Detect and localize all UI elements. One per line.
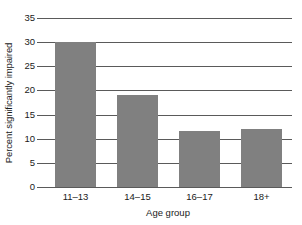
y-tick-label-15: 15 bbox=[5, 110, 35, 120]
y-tick-label-0: 0 bbox=[5, 182, 35, 192]
y-tick-label-25: 25 bbox=[5, 62, 35, 72]
tickmark-25 bbox=[37, 66, 44, 67]
y-tick-label-10: 10 bbox=[5, 134, 35, 144]
tickmark-15 bbox=[37, 115, 44, 116]
y-tick-label-20: 20 bbox=[5, 86, 35, 96]
x-axis-title: Age group bbox=[44, 206, 292, 219]
x-tick-label-2: 16–17 bbox=[175, 190, 225, 204]
bar-age-11-13 bbox=[55, 42, 96, 187]
y-tick-label-35: 35 bbox=[5, 13, 35, 23]
x-tick-label-3: 18+ bbox=[237, 190, 287, 204]
x-tick-label-0: 11–13 bbox=[51, 190, 101, 204]
tickmark-30 bbox=[37, 42, 44, 43]
axis-baseline bbox=[44, 187, 292, 188]
bar-age-18-plus bbox=[241, 129, 282, 187]
tickmark-5 bbox=[37, 163, 44, 164]
tickmark-10 bbox=[37, 139, 44, 140]
tickmark-20 bbox=[37, 90, 44, 91]
tickmark-35 bbox=[37, 18, 44, 19]
bars-layer bbox=[44, 18, 292, 187]
y-tick-label-30: 30 bbox=[5, 37, 35, 47]
x-tick-label-1: 14–15 bbox=[113, 190, 163, 204]
plot-area: 35 30 25 20 15 10 bbox=[44, 18, 292, 187]
x-tick-labels: 11–13 14–15 16–17 18+ bbox=[44, 190, 292, 204]
bar-chart-figure: Percent significantly impaired 35 30 25 … bbox=[0, 0, 302, 225]
bar-age-16-17 bbox=[179, 131, 220, 187]
y-tick-label-5: 5 bbox=[5, 158, 35, 168]
bar-age-14-15 bbox=[117, 95, 158, 187]
tickmark-0 bbox=[37, 187, 44, 188]
